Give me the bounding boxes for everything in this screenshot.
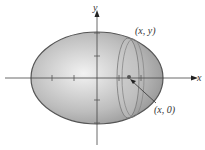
label-point-xy: (x, y) [135,25,156,36]
label-point-x0: (x, 0) [154,104,175,115]
x-axis-label: x [197,72,201,83]
y-axis-label: y [93,2,97,13]
ellipsoid-diagram [0,0,205,150]
point-x0 [127,75,131,79]
